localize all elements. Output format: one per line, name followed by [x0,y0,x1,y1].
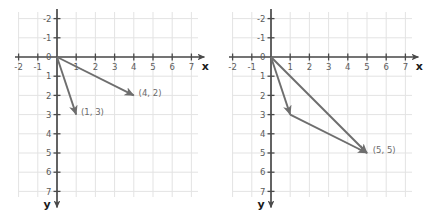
y-tick-label: 7 [46,187,51,197]
y-tick-label: 3 [260,110,265,120]
x-tick-label: 2 [307,62,312,72]
x-tick-label: -2 [14,62,22,72]
y-tick-label: -1 [257,33,265,43]
y-tick-label: 1 [260,71,265,81]
y-tick-label: 1 [46,71,51,81]
x-tick-label: 6 [383,62,388,72]
y-tick-label: 7 [260,187,265,197]
x-tick-label: 7 [189,62,194,72]
coordinate-plane: -2-11234567-2-101234567xy(5, 5) [214,0,427,223]
x-tick-label: -1 [34,62,42,72]
y-tick-label: 0 [46,52,51,62]
x-tick-label: 3 [326,62,331,72]
point-label: (1, 3) [81,107,104,117]
x-tick-label: 6 [169,62,174,72]
y-tick-label: -2 [43,14,51,24]
x-tick-label: 7 [403,62,408,72]
point-label: (4, 2) [139,88,162,98]
y-tick-label: 4 [260,129,265,139]
y-tick-label: 5 [46,148,51,158]
y-tick-label: 2 [46,91,51,101]
x-tick-label: -1 [248,62,256,72]
x-axis-label: x [416,60,423,73]
x-tick-label: 2 [93,62,98,72]
x-tick-label: 5 [364,62,369,72]
y-tick-label: 2 [260,91,265,101]
y-tick-label: 3 [46,110,51,120]
y-tick-label: -1 [43,33,51,43]
x-axis-label: x [202,60,209,73]
y-tick-label: 6 [46,167,51,177]
x-tick-label: -2 [228,62,236,72]
y-tick-label: 5 [260,148,265,158]
y-axis-label: y [257,198,264,211]
coordinate-plane: -2-11234567-2-101234567xy(1, 3)(4, 2) [0,0,213,223]
y-axis-label: y [43,198,50,211]
x-tick-label: 4 [345,62,350,72]
y-tick-label: 4 [46,129,51,139]
tick-marks [19,19,192,192]
point-labels: (1, 3)(4, 2) [81,88,161,117]
point-labels: (5, 5) [373,145,396,155]
vectors [271,57,367,153]
y-tick-label: -2 [257,14,265,24]
vector-panel-left: -2-11234567-2-101234567xy(1, 3)(4, 2) [0,0,213,223]
tick-labels: -2-11234567-2-101234567 [14,14,194,197]
x-tick-label: 1 [287,62,292,72]
x-tick-label: 4 [131,62,136,72]
x-tick-label: 5 [150,62,155,72]
x-tick-label: 3 [112,62,117,72]
vector-resultant [271,57,367,153]
vector-panel-right: -2-11234567-2-101234567xy(5, 5) [214,0,427,223]
point-label: (5, 5) [373,145,396,155]
y-tick-label: 0 [260,52,265,62]
y-tick-label: 6 [260,167,265,177]
